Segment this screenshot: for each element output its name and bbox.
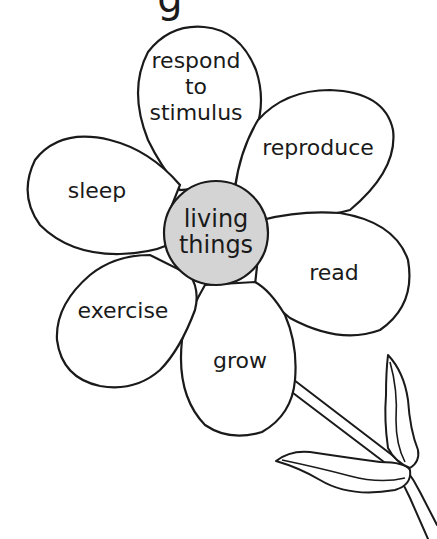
- flower-diagram: g respond to stimulus reproduce read gro…: [0, 0, 437, 539]
- petal-label: sleep: [68, 178, 127, 203]
- petal-label: exercise: [78, 298, 169, 323]
- center-label: things: [179, 231, 253, 259]
- petal-label: read: [309, 260, 359, 285]
- petal-label: to: [185, 74, 207, 99]
- leaf-upright: [385, 355, 418, 468]
- center-label: living: [184, 205, 249, 233]
- center-circle: living things: [164, 181, 268, 285]
- petal-label: reproduce: [262, 135, 374, 160]
- petal-label: respond: [152, 48, 241, 73]
- petal-label: stimulus: [149, 100, 242, 125]
- leaf-left: [276, 452, 410, 493]
- petal-label: grow: [213, 348, 267, 373]
- title-fragment: g: [157, 0, 182, 21]
- petal-exercise: exercise: [57, 255, 197, 387]
- petal-grow: grow: [181, 282, 296, 436]
